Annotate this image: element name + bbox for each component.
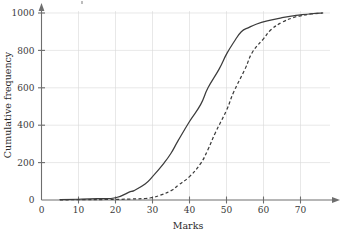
x-tick-label: 10 [73,205,85,215]
y-tick-label: 1000 [12,8,35,18]
x-tick-label: 0 [39,205,45,215]
x-tick-label: 30 [147,205,159,215]
image-artifact-speck [81,1,83,4]
x-tick-label: 60 [258,205,270,215]
grid-lines [42,11,331,200]
cumulative-frequency-chart: 02004006008001000 010203040506070 Marks … [0,0,344,235]
y-axis-title: Cumulative frequency [2,51,13,158]
series-line-dashed [60,13,323,200]
x-tick-label: 20 [110,205,122,215]
x-tick-label: 40 [184,205,196,215]
y-tick-label: 800 [17,46,34,56]
x-axis-arrowhead [332,197,340,203]
y-tick-label: 0 [29,195,35,205]
x-tick-label: 50 [221,205,233,215]
x-axis-title: Marks [173,220,204,231]
series-line-solid [60,13,323,200]
y-tick-label: 400 [17,120,34,130]
chart-canvas: 02004006008001000 010203040506070 Marks … [0,0,344,235]
y-tick-label: 200 [17,158,34,168]
y-axis-arrowhead [39,3,45,11]
x-tick-label: 70 [295,205,307,215]
y-tick-label: 600 [17,83,34,93]
y-tick-labels: 02004006008001000 [12,8,35,205]
x-tick-labels: 010203040506070 [39,205,307,215]
